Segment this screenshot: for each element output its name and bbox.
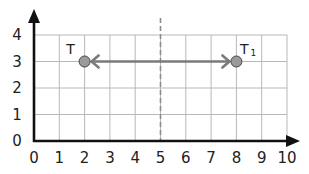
point-label-subscript: 1: [250, 48, 256, 58]
x-tick-label: 3: [105, 149, 115, 167]
x-tick-label: 7: [206, 149, 216, 167]
y-tick-label: 2: [12, 79, 22, 97]
x-tick-label: 0: [29, 149, 39, 167]
axes: [28, 9, 300, 147]
coordinate-grid: 012345678910 01234 TT1: [0, 0, 309, 174]
x-axis-arrowhead-icon: [286, 135, 300, 147]
y-axis-arrowhead-icon: [28, 9, 40, 23]
y-tick-label: 4: [12, 26, 22, 44]
x-tick-label: 2: [80, 149, 90, 167]
point-label: T: [239, 41, 249, 57]
y-tick-labels: 01234: [12, 26, 22, 150]
x-tick-label: 10: [277, 149, 296, 167]
y-tick-label: 1: [12, 106, 22, 124]
x-tick-label: 5: [156, 149, 166, 167]
x-tick-label: 6: [181, 149, 191, 167]
point-marker: [231, 56, 242, 67]
y-tick-label: 3: [12, 53, 22, 71]
x-tick-label: 8: [232, 149, 242, 167]
x-tick-labels: 012345678910: [29, 149, 296, 167]
point-marker: [79, 56, 90, 67]
point-label: T: [65, 41, 75, 57]
x-tick-label: 9: [257, 149, 267, 167]
x-tick-label: 1: [55, 149, 65, 167]
x-tick-label: 4: [130, 149, 140, 167]
y-tick-label: 0: [12, 132, 22, 150]
